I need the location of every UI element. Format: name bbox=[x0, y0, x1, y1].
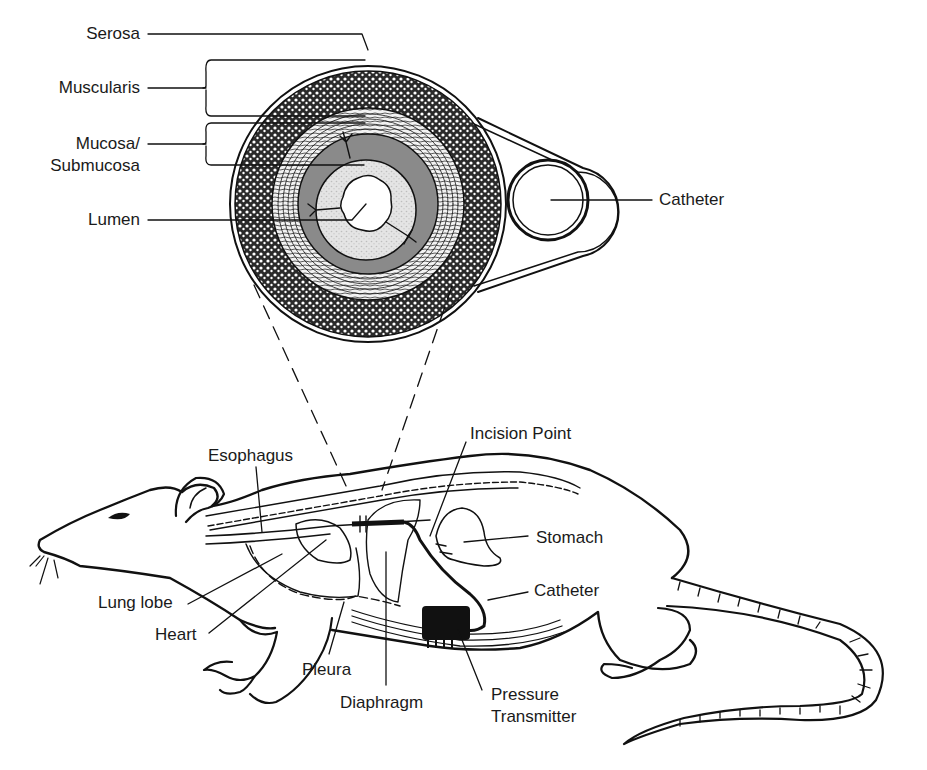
label-diaphragm: Diaphragm bbox=[340, 693, 423, 713]
label-transmitter: Transmitter bbox=[491, 707, 576, 727]
label-lumen: Lumen bbox=[60, 210, 140, 230]
label-lung-lobe: Lung lobe bbox=[98, 593, 173, 613]
rat-whiskers bbox=[30, 556, 58, 584]
rat-tail bbox=[624, 578, 883, 744]
esophagus-cross-section bbox=[230, 66, 619, 342]
spine-line-upper bbox=[206, 472, 580, 516]
label-incision-point: Incision Point bbox=[470, 424, 571, 444]
label-submucosa: Submucosa bbox=[30, 156, 140, 176]
stomach bbox=[436, 508, 501, 566]
label-heart: Heart bbox=[155, 625, 197, 645]
lumen bbox=[341, 175, 392, 231]
pressure-transmitter bbox=[422, 606, 470, 640]
rat-eye bbox=[108, 513, 130, 520]
label-catheter: Catheter bbox=[534, 581, 599, 601]
label-pressure: Pressure bbox=[491, 685, 559, 705]
label-esophagus: Esophagus bbox=[208, 446, 293, 466]
label-stomach: Stomach bbox=[536, 528, 603, 548]
diagram-canvas: Serosa Muscularis Mucosa/ Submucosa Lume… bbox=[0, 0, 927, 770]
diagram-artwork bbox=[0, 0, 927, 770]
label-serosa: Serosa bbox=[60, 24, 140, 44]
tail-scale-marks bbox=[678, 582, 872, 726]
rat-leader-lines bbox=[188, 442, 528, 690]
label-mucosa: Mucosa/ bbox=[30, 134, 140, 154]
label-pleura: Pleura bbox=[302, 660, 351, 680]
label-catheter-cross-section: Catheter bbox=[659, 190, 724, 210]
label-muscularis: Muscularis bbox=[30, 78, 140, 98]
diaphragm bbox=[366, 500, 420, 602]
